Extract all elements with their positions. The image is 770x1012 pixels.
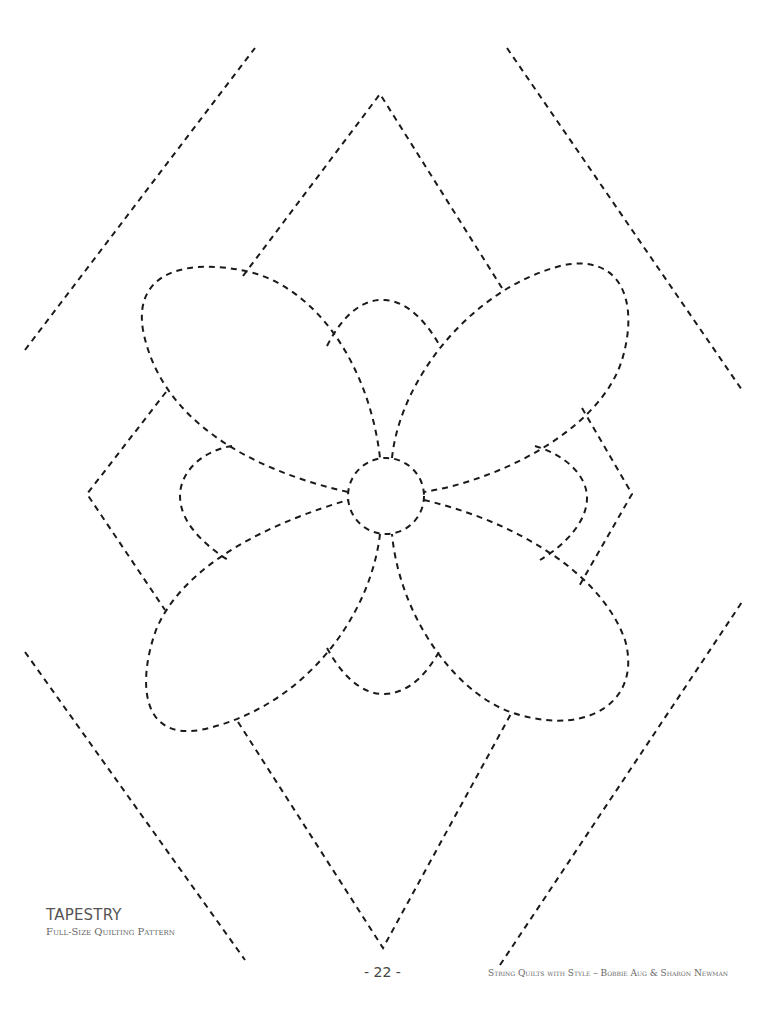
border-line-bottom-right — [500, 602, 742, 965]
pattern-title: TAPESTRY — [46, 906, 122, 924]
petal-top-left — [142, 267, 380, 492]
center-circle — [348, 458, 424, 534]
border-line-top-right — [507, 48, 742, 390]
arc-top — [327, 300, 440, 346]
petal-top-right — [392, 264, 628, 492]
diamond-bottom-edges — [238, 712, 512, 948]
arc-bottom — [327, 648, 440, 694]
book-credit: String Quilts with Style – Bobbie Aug & … — [488, 968, 728, 978]
page-number: - 22 - — [364, 964, 401, 980]
arc-left — [180, 446, 232, 560]
border-line-top-left — [25, 48, 255, 350]
petal-bottom-right — [392, 500, 628, 721]
diamond-left-edges — [87, 392, 166, 610]
diamond-top-edges — [243, 94, 502, 288]
pattern-subtitle: Full-Size Quilting Pattern — [46, 926, 175, 937]
arc-right — [535, 446, 587, 560]
petal-bottom-left — [146, 500, 380, 731]
quilting-pattern-drawing — [0, 0, 770, 1012]
